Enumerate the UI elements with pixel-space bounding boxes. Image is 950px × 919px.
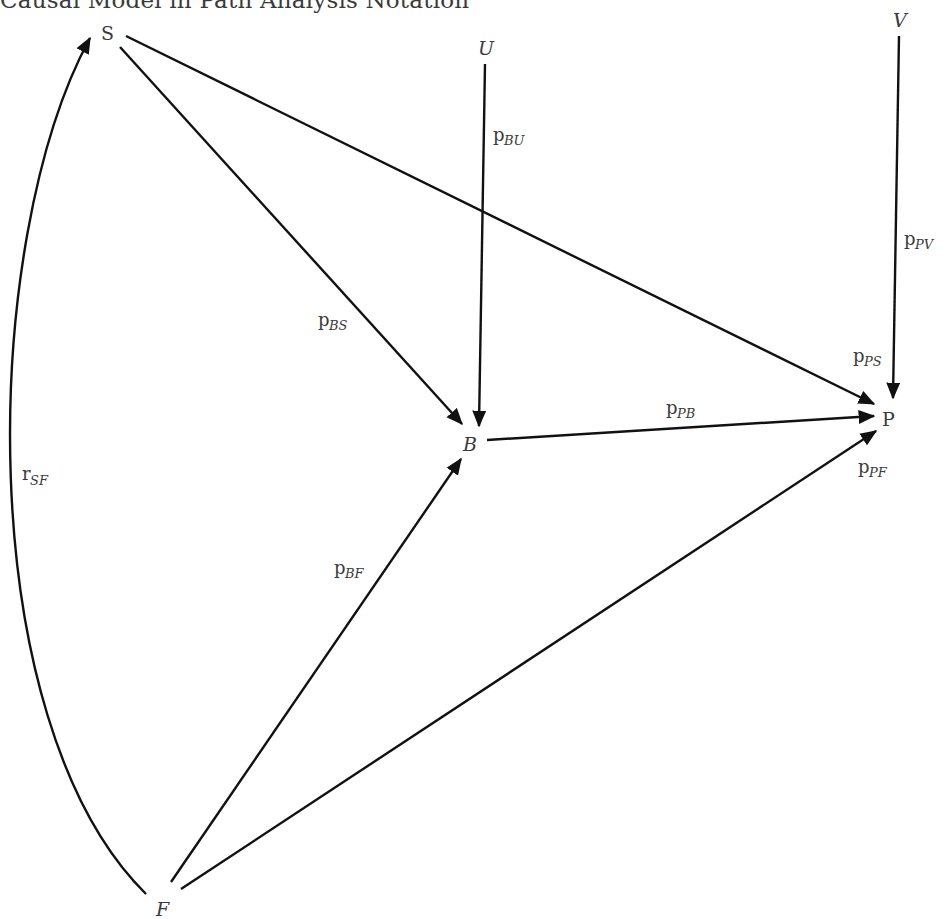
svg-text:PV: PV xyxy=(914,237,935,252)
svg-text:p: p xyxy=(853,345,865,366)
node-b: B xyxy=(462,433,477,455)
label-p-bu: p BU xyxy=(493,124,526,148)
svg-text:PS: PS xyxy=(863,354,882,369)
svg-text:p: p xyxy=(858,456,870,477)
label-p-bs: p BS xyxy=(318,309,348,333)
node-v: V xyxy=(893,9,909,31)
node-p: P xyxy=(882,408,895,430)
label-p-ps: p PS xyxy=(853,345,882,369)
node-f: F xyxy=(155,898,170,919)
svg-text:p: p xyxy=(666,397,678,418)
edge-u-to-b xyxy=(479,64,485,426)
path-diagram: S U V B P F p BU p PV p BS p PS p PB p P… xyxy=(0,0,950,919)
node-u: U xyxy=(478,37,495,59)
svg-text:BF: BF xyxy=(344,566,365,581)
label-p-pb: p PB xyxy=(666,397,695,421)
node-s: S xyxy=(101,22,114,44)
edge-s-to-p xyxy=(126,36,874,404)
edge-f-to-p xyxy=(181,431,876,889)
svg-text:PB: PB xyxy=(676,406,695,421)
svg-text:BU: BU xyxy=(503,133,526,148)
label-p-pf: p PF xyxy=(858,456,888,480)
edge-v-to-p xyxy=(893,36,899,398)
svg-text:BS: BS xyxy=(328,318,348,333)
edge-s-to-b xyxy=(120,47,462,424)
svg-text:p: p xyxy=(904,228,916,249)
svg-text:p: p xyxy=(334,557,346,578)
edge-f-to-b xyxy=(171,459,461,882)
svg-text:p: p xyxy=(318,309,330,330)
label-p-bf: p BF xyxy=(334,557,365,581)
svg-text:p: p xyxy=(493,124,505,145)
svg-text:SF: SF xyxy=(30,473,49,488)
svg-text:PF: PF xyxy=(868,465,888,480)
label-r-sf: r SF xyxy=(22,463,49,488)
label-p-pv: p PV xyxy=(904,228,935,252)
